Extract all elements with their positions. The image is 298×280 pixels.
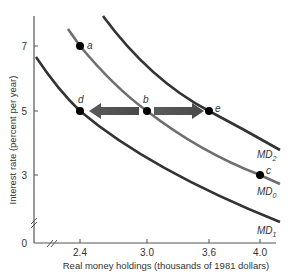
curve-md2 [103,16,280,150]
x-tick-3-0: 3.0 [140,247,154,258]
y-tick-7: 7 [21,41,27,52]
x-tick-3-6: 3.6 [202,247,216,258]
x-tick-2-4: 2.4 [73,247,87,258]
label-c: c [266,165,271,176]
y-tick-3: 3 [21,170,27,181]
point-c [256,171,264,179]
point-e [205,107,213,115]
y-tick-0: 0 [21,238,27,249]
label-a: a [87,40,93,51]
y-tick-labels: 7 5 3 0 [21,41,27,249]
x-tick-labels: 2.4 3.0 3.6 4.0 [73,247,267,258]
arrow-left-icon [89,103,139,119]
axes [31,16,276,247]
curve-md1 [36,57,280,222]
label-b: b [143,94,149,105]
x-tick-4-0: 4.0 [253,247,267,258]
label-md2: MD2 [257,149,277,162]
label-e: e [215,103,221,114]
x-axis-title: Real money holdings (thousands of 1981 d… [63,260,270,271]
y-tick-5: 5 [21,106,27,117]
y-axis-title: Interest rate (percent per year) [7,76,18,205]
point-a [76,42,84,50]
label-d: d [78,94,84,105]
label-md1: MD1 [257,225,277,238]
point-b [143,107,151,115]
point-d [76,107,84,115]
label-md0: MD0 [257,186,277,199]
money-demand-chart: 7 5 3 0 2.4 3.0 3.6 4.0 Real money holdi… [0,0,298,280]
